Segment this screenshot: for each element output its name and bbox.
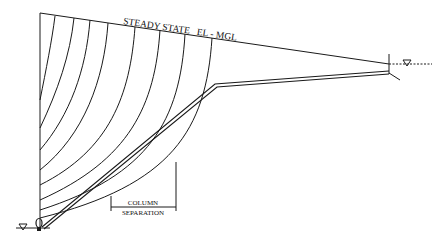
steady-state-label: STEADY STATE EL - MGL: [123, 16, 238, 42]
transient-pressure-diagram: STEADY STATE EL - MGL COLUMN SEPARATION: [0, 0, 443, 240]
separation-label: SEPARATION: [122, 209, 164, 217]
valve-icon: [36, 219, 42, 232]
column-label: COLUMN: [128, 199, 158, 207]
downstream-water-level-icon: [403, 60, 411, 66]
upstream-water-level-icon: [19, 224, 27, 230]
reservoir-bank: [389, 73, 400, 80]
pipeline-profile: [42, 71, 389, 229]
pressure-wave-curves: [40, 16, 212, 218]
